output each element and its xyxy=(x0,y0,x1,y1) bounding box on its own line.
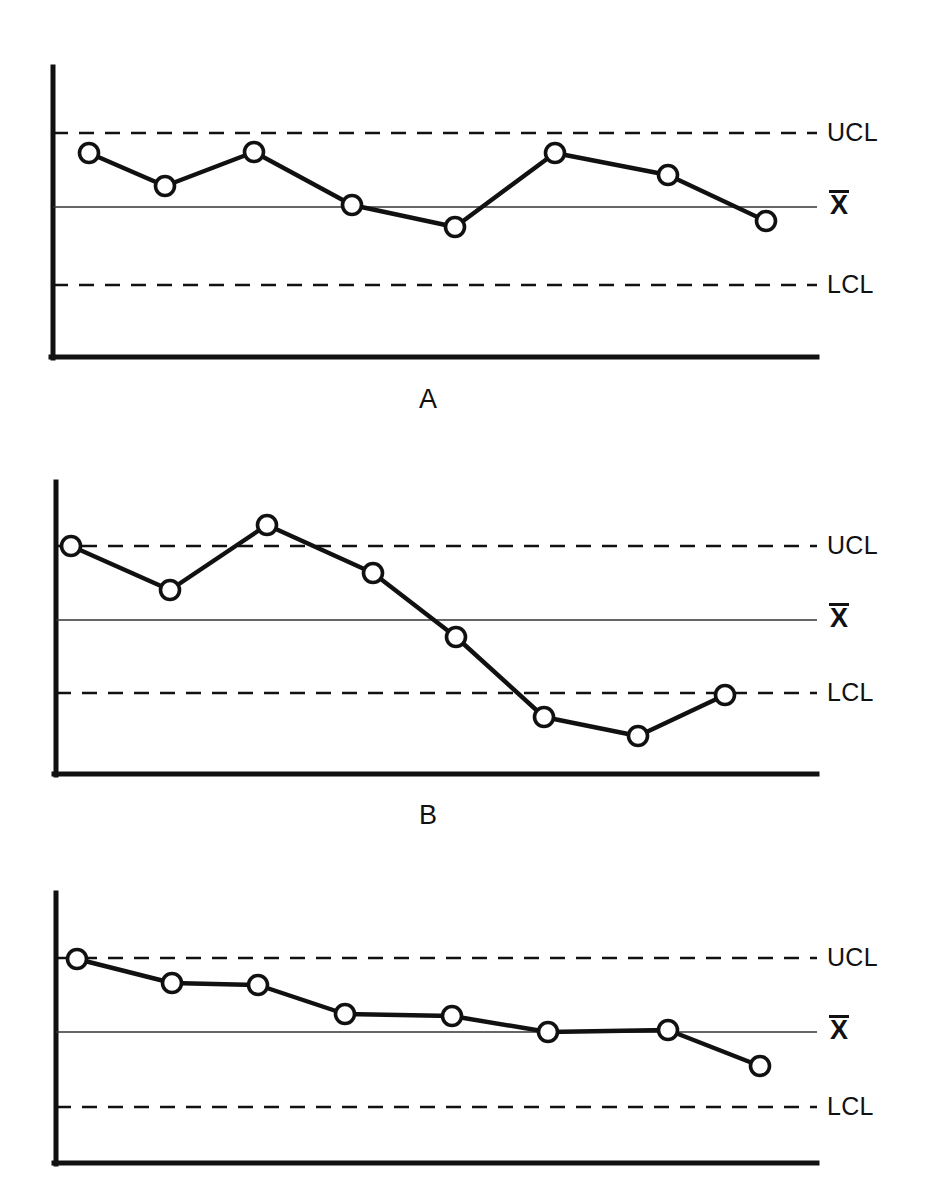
data-point xyxy=(80,144,99,163)
data-point xyxy=(659,1021,678,1040)
panel-a-center-label: X xyxy=(830,190,848,219)
control-charts-svg xyxy=(0,0,930,1196)
panel-a-group xyxy=(51,67,817,358)
panel-b-markers xyxy=(62,516,735,746)
panel-a-series-line xyxy=(89,152,766,227)
x-bar-glyph: X xyxy=(830,1015,848,1044)
panel-b-group xyxy=(54,482,817,775)
panel-c-lcl-label: LCL xyxy=(827,1094,874,1119)
panel-b-letter: B xyxy=(419,802,438,829)
data-point xyxy=(258,516,277,535)
data-point xyxy=(161,581,180,600)
data-point xyxy=(751,1057,770,1076)
data-point xyxy=(447,628,466,647)
panel-b-series-line xyxy=(71,525,725,736)
panel-b-ucl-label: UCL xyxy=(827,533,878,558)
panel-b-lcl-label: LCL xyxy=(827,680,874,705)
data-point xyxy=(163,974,182,993)
panel-c-center-label: X xyxy=(830,1015,848,1044)
panel-c-group xyxy=(54,893,817,1164)
data-point xyxy=(443,1007,462,1026)
data-point xyxy=(539,1023,558,1042)
data-point xyxy=(249,976,268,995)
x-bar-glyph: X xyxy=(830,603,848,632)
data-point xyxy=(68,950,87,969)
panel-b-center-label: X xyxy=(830,603,848,632)
data-point xyxy=(716,686,735,705)
data-point xyxy=(156,177,175,196)
panel-a-letter: A xyxy=(419,386,438,413)
data-point xyxy=(659,166,678,185)
data-point xyxy=(245,143,264,162)
data-point xyxy=(364,564,383,583)
data-point xyxy=(336,1005,355,1024)
data-point xyxy=(757,212,776,231)
data-point xyxy=(535,708,554,727)
control-chart-figure: UCL X LCL A UCL X LCL B UCL X LCL xyxy=(0,0,930,1196)
x-bar-glyph: X xyxy=(830,190,848,219)
panel-c-ucl-label: UCL xyxy=(827,945,878,970)
panel-a-lcl-label: LCL xyxy=(827,272,874,297)
data-point xyxy=(343,196,362,215)
data-point xyxy=(546,144,565,163)
data-point xyxy=(446,218,465,237)
data-point xyxy=(62,537,81,556)
data-point xyxy=(629,727,648,746)
panel-c-markers xyxy=(68,950,770,1076)
panel-a-ucl-label: UCL xyxy=(827,120,878,145)
